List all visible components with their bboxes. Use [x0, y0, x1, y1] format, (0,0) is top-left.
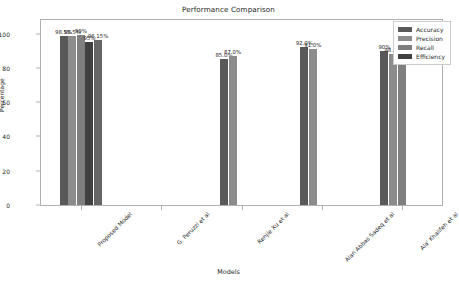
- legend-item[interactable]: Precision: [398, 34, 445, 43]
- bar-value-label: 91.0%: [304, 42, 321, 48]
- bar[interactable]: 91.0%: [309, 49, 317, 205]
- x-axis-label: Models: [0, 268, 457, 276]
- bar-group: 92.0%91.0%: [300, 20, 343, 205]
- legend-label: Accuracy: [416, 26, 443, 33]
- y-axis-tick-label: 60: [0, 99, 14, 106]
- y-axis-tick-mark: [36, 205, 40, 206]
- y-axis-label: Percentage: [0, 78, 5, 112]
- x-axis-tick-mark: [242, 206, 243, 210]
- legend-swatch: [398, 54, 412, 60]
- x-axis-tick-mark: [161, 206, 162, 210]
- bar[interactable]: 90%: [380, 51, 388, 205]
- y-axis-tick-label: 0: [0, 202, 14, 209]
- bar-value-label: 99%: [75, 28, 87, 34]
- y-axis-tick-mark: [36, 136, 40, 137]
- y-axis-tick-label: 100: [0, 30, 14, 37]
- plot-area: 98.5%98.5%99%95%96.15%85.0%87.0%92.0%91.…: [40, 19, 443, 206]
- bars-layer: 98.5%98.5%99%95%96.15%85.0%87.0%92.0%91.…: [41, 20, 442, 205]
- chart-legend: AccuracyPrecisionRecallEfficiency: [393, 21, 451, 65]
- legend-label: Precision: [416, 35, 443, 42]
- legend-label: Recall: [416, 44, 434, 51]
- x-axis-tick-mark: [322, 206, 323, 210]
- bar-group: [140, 20, 183, 205]
- y-axis-tick-mark: [36, 33, 40, 34]
- bar[interactable]: 96.15%: [94, 40, 102, 205]
- legend-swatch: [398, 27, 412, 33]
- y-axis-tick-label: 80: [0, 64, 14, 71]
- chart-title: Performance Comparison: [0, 5, 457, 14]
- y-axis-tick-label: 20: [0, 167, 14, 174]
- x-axis-tick-label: Renjie Xu et al: [256, 211, 290, 245]
- x-axis-tick-mark: [402, 206, 403, 210]
- bar[interactable]: 85.0%: [220, 59, 228, 205]
- bar-group: 98.5%98.5%99%95%96.15%: [60, 20, 103, 205]
- x-axis-tick-label: G. Peruzzi et al: [176, 211, 211, 246]
- y-axis-tick-mark: [36, 102, 40, 103]
- y-axis-tick-mark: [36, 170, 40, 171]
- bar[interactable]: 98.5%: [68, 36, 76, 205]
- x-axis-tick-label: Alan Abbas Sadeq et al: [343, 211, 395, 263]
- bar[interactable]: 99%: [77, 35, 85, 205]
- legend-label: Efficiency: [416, 53, 445, 60]
- legend-item[interactable]: Recall: [398, 43, 445, 52]
- bar[interactable]: 95%: [85, 42, 93, 205]
- x-axis-tick-label: Ala' Khalifeh et al: [419, 211, 459, 251]
- bar[interactable]: 92.0%: [300, 47, 308, 205]
- bar[interactable]: 89.0%: [398, 53, 406, 205]
- bar-group: 85.0%87.0%: [220, 20, 263, 205]
- legend-swatch: [398, 36, 412, 42]
- bar[interactable]: 87.0%: [229, 56, 237, 205]
- x-axis-tick-mark: [81, 206, 82, 210]
- bar-value-label: 87.0%: [224, 49, 241, 55]
- bar-value-label: 96.15%: [88, 33, 109, 39]
- bar[interactable]: 88.0%: [389, 54, 397, 205]
- legend-item[interactable]: Accuracy: [398, 25, 445, 34]
- y-axis-tick-label: 40: [0, 133, 14, 140]
- legend-item[interactable]: Efficiency: [398, 52, 445, 61]
- legend-swatch: [398, 45, 412, 51]
- x-axis-tick-label: Proposed Model: [97, 211, 134, 248]
- y-axis-tick-mark: [36, 67, 40, 68]
- bar[interactable]: 98.5%: [60, 36, 68, 205]
